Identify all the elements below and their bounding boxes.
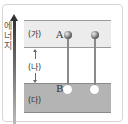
energy-axis-label: 에 너 지 [3,21,13,51]
energy-arrow-icon [13,20,16,124]
gap-arrow-line [35,51,36,59]
band-na-label: (나) [28,61,41,72]
axis-char: 지 [3,41,13,51]
transition-line-1 [67,39,69,89]
hole-b [63,85,72,94]
band-ga-label: (가) [28,28,41,39]
point-a-label: A [56,29,63,40]
band-da-label: (다) [28,94,41,105]
electron-2 [91,31,99,39]
axis-char: 너 [3,31,13,41]
axis-char: 에 [3,21,13,31]
electron-a [64,31,72,39]
transition-line-2 [94,39,96,89]
hole-2 [90,85,99,94]
gap-arrow-down-icon [33,80,37,83]
